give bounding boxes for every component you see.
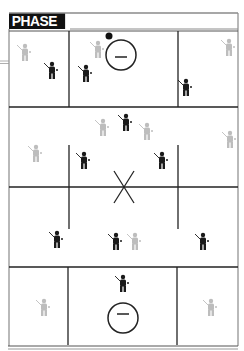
ball-icon — [106, 33, 113, 40]
offense-player-icon — [178, 79, 192, 96]
offense-player-icon — [118, 114, 132, 131]
defense-player-icon — [221, 39, 235, 56]
defense-player-icon — [28, 145, 42, 162]
offense-player-icon — [44, 62, 58, 79]
defense-player-icon — [222, 131, 236, 148]
defense-player-icon — [203, 299, 217, 316]
defense-player-icon — [17, 44, 31, 61]
defense-player-icon — [139, 123, 153, 140]
offense-player-icon — [108, 233, 122, 250]
defense-player-icon — [127, 233, 141, 250]
field-frame — [0, 13, 238, 349]
offense-player-icon — [78, 65, 92, 82]
defense-player-icon — [90, 41, 104, 58]
offense-player-icon — [154, 152, 168, 169]
bottom-goal-crease-icon — [108, 303, 138, 333]
offense-player-icon — [76, 152, 90, 169]
offense-player-icon — [115, 275, 129, 292]
lacrosse-field-diagram — [0, 0, 244, 351]
defense-player-icon — [36, 299, 50, 316]
defense-player-icon — [95, 119, 109, 136]
top-goal-crease-icon — [106, 40, 136, 70]
top-zone-lines — [9, 31, 238, 107]
players — [17, 39, 236, 316]
offense-player-icon — [195, 233, 209, 250]
offense-player-icon — [49, 231, 63, 248]
